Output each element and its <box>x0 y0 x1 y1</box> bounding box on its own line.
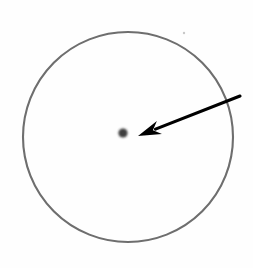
stray-speck-icon <box>183 32 185 34</box>
geometry-diagram-svg: Circle with center point indicated by ar… <box>0 0 253 268</box>
figure-canvas: Circle with center point indicated by ar… <box>0 0 253 268</box>
center-point-dot <box>118 128 127 137</box>
